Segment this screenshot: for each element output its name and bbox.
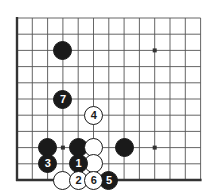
move-stone-4-label: 4 [91,109,97,120]
move-stone-1-label: 1 [75,158,81,169]
star-point-lower-right [153,146,157,150]
move-stone-3-label: 3 [45,158,51,169]
move-stone-7-label: 7 [60,93,66,104]
move-stone-7: 7 [53,90,72,109]
move-stone-6: 6 [84,171,103,190]
move-stone-6-label: 6 [91,174,97,185]
star-point-upper-right [153,48,157,52]
black-stone-right-side [115,138,134,157]
move-stone-5-label: 5 [106,174,112,185]
go-board-diagram: 1234567 [0,0,220,196]
goban-grid [0,0,220,196]
move-stone-4: 4 [84,106,103,125]
star-point-lower-left [61,146,65,150]
move-stone-2-label: 2 [75,174,81,185]
